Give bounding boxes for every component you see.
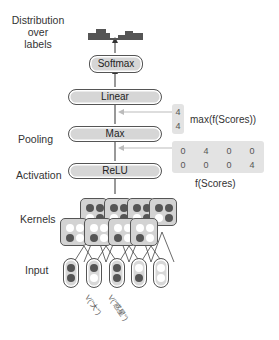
kernels-label: Kernels [20, 213, 56, 225]
score-cell: 0 [200, 160, 212, 170]
linear-layer: Linear [68, 89, 162, 105]
distribution-label-line2: over [8, 26, 68, 38]
input-token [109, 258, 125, 288]
input-token [131, 258, 147, 288]
activation-label: Activation [16, 169, 62, 181]
softmax-layer: Softmax [89, 55, 143, 73]
score-cell: 4 [246, 160, 258, 170]
input-token [63, 258, 79, 288]
score-cell: 4 [200, 146, 212, 156]
input-token [153, 258, 169, 288]
score-cell: 0 [177, 146, 189, 156]
score-cell: 0 [177, 160, 189, 170]
max-pooling-layer: Max [68, 126, 162, 142]
score-cell: 0 [223, 146, 235, 156]
input-label: Input [25, 264, 48, 276]
score-cell: 0 [246, 146, 258, 156]
distribution-label: Distribution over labels [8, 14, 68, 50]
score-cell: 0 [223, 160, 235, 170]
distribution-label-line1: Distribution [8, 14, 68, 26]
f-scores-label: f(Scores) [195, 178, 236, 189]
max-scores-label: max(f(Scores)) [190, 114, 256, 125]
max-score-value: 4 [172, 121, 184, 131]
input-token [86, 258, 102, 288]
pooling-label: Pooling [18, 133, 53, 145]
f-scores-grid: 0 4 0 0 0 0 0 4 [172, 141, 264, 173]
kernel [130, 218, 158, 246]
max-score-value: 4 [172, 107, 184, 117]
relu-layer: ReLU [68, 163, 162, 179]
distribution-histogram [88, 26, 143, 40]
distribution-label-line3: labels [8, 38, 68, 50]
max-scores-box: 4 4 [172, 104, 184, 134]
